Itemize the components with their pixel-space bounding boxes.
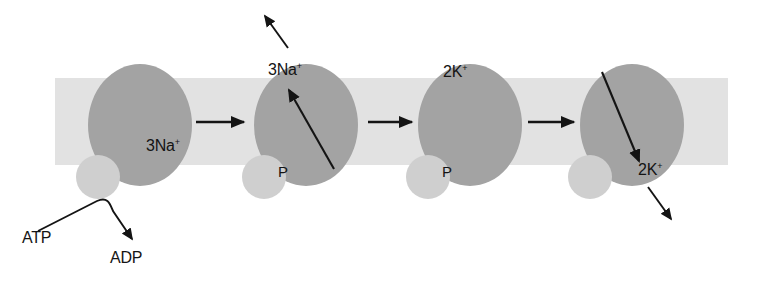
label-sodium-stage-2: 3Na+ xyxy=(268,62,302,78)
label-sodium-stage-1-text: 3Na xyxy=(146,137,175,154)
label-potassium-stage-3: 2K+ xyxy=(443,64,467,80)
phosphate-circle-stage-4 xyxy=(568,155,612,199)
potassium-release-arrow xyxy=(648,187,671,219)
label-atp-text: ATP xyxy=(22,229,51,246)
label-potassium-stage-4-text: 2K xyxy=(638,161,657,178)
figure-canvas: 3Na+ P 3Na+ P 2K+ 2K+ ATP ADP xyxy=(0,0,767,291)
label-potassium-stage-3-text: 2K xyxy=(443,63,462,80)
label-phosphate-stage-2: P xyxy=(278,164,288,179)
label-atp: ATP xyxy=(22,230,51,246)
label-adp-text: ADP xyxy=(110,249,142,266)
phosphate-circle-stage-1 xyxy=(76,155,120,199)
charge-sign-1: + xyxy=(175,137,180,147)
label-sodium-stage-2-text: 3Na xyxy=(268,61,297,78)
atp-to-adp-arrow xyxy=(38,199,132,239)
charge-sign-4: + xyxy=(657,161,662,171)
charge-sign-2: + xyxy=(297,61,302,71)
label-phosphate-stage-3-text: P xyxy=(442,163,452,180)
sodium-exit-arrow xyxy=(265,16,288,48)
label-adp: ADP xyxy=(110,250,142,266)
label-sodium-stage-1: 3Na+ xyxy=(146,138,180,154)
label-potassium-stage-4: 2K+ xyxy=(638,162,662,178)
label-phosphate-stage-3: P xyxy=(442,164,452,179)
label-phosphate-stage-2-text: P xyxy=(278,163,288,180)
charge-sign-3: + xyxy=(462,63,467,73)
